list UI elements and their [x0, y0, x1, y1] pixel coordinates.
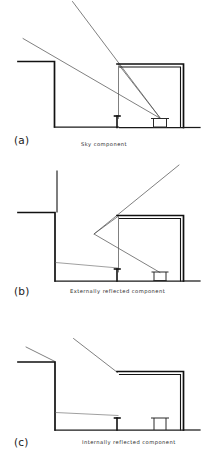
- panel-label-c: (c): [14, 436, 29, 448]
- figure-background: [0, 0, 208, 458]
- daylight-factor-figure: (a) Sky component: [0, 0, 208, 458]
- panel-label-a: (a): [14, 134, 29, 146]
- panel-label-b: (b): [14, 285, 29, 297]
- panel-caption-b: Externally reflected component: [70, 288, 165, 295]
- panel-caption-a: Sky component: [81, 141, 127, 148]
- panel-caption-c: Internally reflected component: [82, 439, 176, 446]
- figure-canvas: (a) Sky component: [0, 0, 208, 458]
